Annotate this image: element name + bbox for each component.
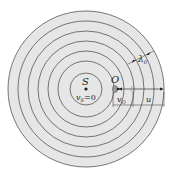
source-label: S	[82, 76, 89, 87]
source-velocity-label: vS=0	[76, 93, 96, 103]
doppler-diagram: S vS=0 O vO u λ0	[0, 0, 172, 188]
wave-speed-label: u	[146, 95, 151, 104]
observer-label: O	[111, 74, 119, 85]
source-dot	[84, 87, 87, 90]
